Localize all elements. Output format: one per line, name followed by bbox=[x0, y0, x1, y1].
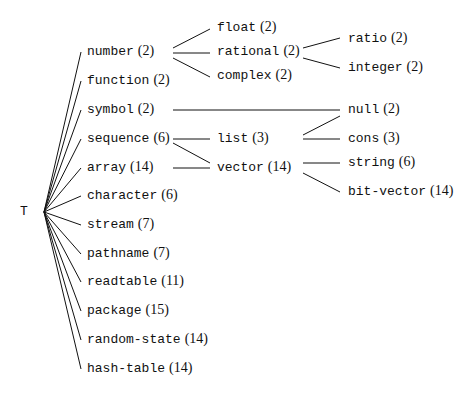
type-hierarchy-diagram: T number(2)function(2)symbol(2)sequence(… bbox=[0, 0, 460, 394]
node-name: random-state bbox=[87, 332, 181, 347]
node-count: (3) bbox=[383, 130, 399, 145]
edge bbox=[303, 58, 340, 68]
node-count: (11) bbox=[161, 273, 184, 288]
node-count: (2) bbox=[260, 19, 276, 34]
edge bbox=[44, 139, 81, 212]
node-count: (14) bbox=[268, 159, 291, 174]
edge bbox=[44, 212, 81, 369]
node-name: character bbox=[87, 188, 157, 203]
node-sequence: sequence(6) bbox=[87, 131, 170, 146]
node-null: null(2) bbox=[348, 102, 400, 117]
edge bbox=[173, 143, 210, 163]
node-count: (2) bbox=[153, 72, 169, 87]
node-name: readtable bbox=[87, 274, 157, 289]
node-name: pathname bbox=[87, 246, 149, 261]
node-count: (2) bbox=[138, 43, 154, 58]
node-cons: cons(3) bbox=[348, 131, 400, 146]
edge bbox=[303, 173, 340, 192]
edge bbox=[303, 38, 340, 48]
node-stream: stream(7) bbox=[87, 217, 154, 232]
edge bbox=[44, 212, 81, 340]
node-name: sequence bbox=[87, 131, 149, 146]
node-name: cons bbox=[348, 131, 379, 146]
edge bbox=[44, 110, 81, 212]
node-count: (7) bbox=[153, 245, 169, 260]
node-name: list bbox=[217, 131, 248, 146]
node-symbol: symbol(2) bbox=[87, 102, 154, 117]
node-count: (2) bbox=[283, 43, 299, 58]
node-integer: integer(2) bbox=[348, 60, 423, 75]
node-count: (14) bbox=[130, 159, 153, 174]
node-name: symbol bbox=[87, 102, 134, 117]
node-count: (14) bbox=[430, 183, 453, 198]
node-array: array(14) bbox=[87, 160, 153, 175]
edge bbox=[303, 116, 340, 135]
node-character: character(6) bbox=[87, 188, 178, 203]
node-name: integer bbox=[348, 60, 403, 75]
node-complex: complex(2) bbox=[217, 68, 292, 83]
node-bit-vector: bit-vector(14) bbox=[348, 184, 453, 199]
node-name: bit-vector bbox=[348, 184, 426, 199]
edge bbox=[44, 52, 81, 212]
node-list: list(3) bbox=[217, 131, 269, 146]
edge bbox=[173, 29, 210, 48]
node-count: (6) bbox=[153, 130, 169, 145]
node-count: (6) bbox=[161, 187, 177, 202]
node-count: (2) bbox=[276, 67, 292, 82]
edge bbox=[44, 81, 81, 212]
node-number: number(2) bbox=[87, 44, 154, 59]
node-rational: rational(2) bbox=[217, 44, 300, 59]
node-name: stream bbox=[87, 217, 134, 232]
node-name: float bbox=[217, 20, 256, 35]
node-count: (2) bbox=[383, 101, 399, 116]
node-name: package bbox=[87, 303, 142, 318]
node-random-state: random-state(14) bbox=[87, 332, 208, 347]
node-name: null bbox=[348, 102, 379, 117]
node-count: (14) bbox=[169, 360, 192, 375]
node-count: (6) bbox=[399, 154, 415, 169]
node-vector: vector(14) bbox=[217, 160, 291, 175]
node-readtable: readtable(11) bbox=[87, 274, 184, 289]
node-string: string(6) bbox=[348, 155, 415, 170]
node-count: (2) bbox=[391, 30, 407, 45]
node-name: array bbox=[87, 160, 126, 175]
node-count: (7) bbox=[138, 216, 154, 231]
node-name: ratio bbox=[348, 31, 387, 46]
node-hash-table: hash-table(14) bbox=[87, 361, 192, 376]
node-count: (3) bbox=[252, 130, 268, 145]
node-function: function(2) bbox=[87, 73, 170, 88]
node-ratio: ratio(2) bbox=[348, 31, 407, 46]
node-name: rational bbox=[217, 44, 279, 59]
node-name: vector bbox=[217, 160, 264, 175]
node-pathname: pathname(7) bbox=[87, 246, 170, 261]
node-name: hash-table bbox=[87, 361, 165, 376]
node-name: complex bbox=[217, 68, 272, 83]
root-node-T: T bbox=[20, 205, 28, 219]
node-count: (15) bbox=[146, 302, 169, 317]
node-name: number bbox=[87, 44, 134, 59]
node-name: function bbox=[87, 73, 149, 88]
node-name: string bbox=[348, 155, 395, 170]
node-count: (2) bbox=[407, 59, 423, 74]
edge bbox=[44, 196, 81, 212]
node-count: (2) bbox=[138, 101, 154, 116]
node-count: (14) bbox=[185, 331, 208, 346]
node-float: float(2) bbox=[217, 20, 276, 35]
edge bbox=[44, 212, 81, 311]
node-package: package(15) bbox=[87, 303, 169, 318]
edge bbox=[173, 58, 210, 77]
